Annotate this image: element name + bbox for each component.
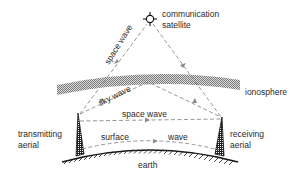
satellite-label-line1: communication	[162, 9, 219, 19]
earth-label: earth	[138, 160, 158, 170]
space-wave-satellite-label: space wave	[102, 22, 134, 66]
transmitting-label-line2: aerial	[18, 140, 39, 150]
receiving-label-line2: aerial	[230, 140, 251, 150]
transmitting-label-line1: transmitting	[18, 129, 62, 139]
satellite-icon	[143, 12, 157, 26]
surface-label: surface	[101, 132, 129, 142]
propagation-diagram: communication satellite ionosphere space…	[0, 0, 308, 182]
receiving-aerial	[215, 117, 224, 156]
satellite-label-line2: satellite	[162, 20, 191, 30]
ionosphere-band	[57, 74, 240, 95]
wave-label: wave	[167, 132, 188, 142]
transmitting-aerial	[76, 113, 84, 156]
space-wave-direct-label: space wave	[122, 109, 167, 119]
ionosphere-label: ionosphere	[245, 87, 287, 97]
receiving-label-line1: receiving	[230, 129, 264, 139]
